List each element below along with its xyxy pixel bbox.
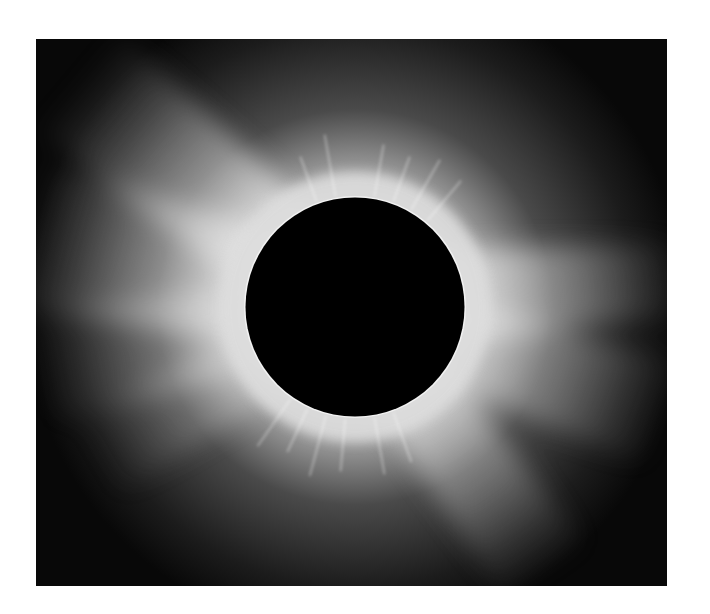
corona-graphic (36, 39, 667, 586)
eclipse-photo (36, 39, 667, 586)
moon-disc (246, 198, 465, 417)
